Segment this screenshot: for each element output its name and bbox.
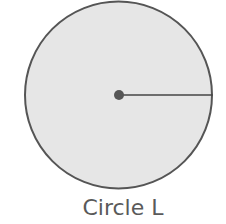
circle-label: Circle L (0, 195, 226, 220)
center-point (114, 90, 124, 100)
circle-diagram (0, 0, 226, 224)
